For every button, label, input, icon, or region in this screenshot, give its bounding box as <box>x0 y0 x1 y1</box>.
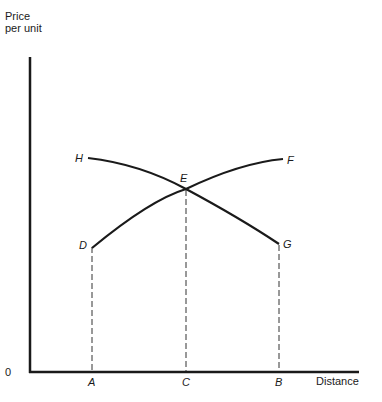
x-point-label-C: C <box>182 376 190 388</box>
point-label-H: H <box>75 152 83 164</box>
origin-label: 0 <box>5 366 11 378</box>
curve-HG <box>88 158 279 244</box>
y-axis-label: Price per unit <box>5 10 45 34</box>
x-point-label-B: B <box>275 376 282 388</box>
x-point-label-A: A <box>88 376 95 388</box>
x-axis-label: Distance <box>316 375 359 387</box>
point-label-D: D <box>79 239 87 251</box>
point-label-E: E <box>180 172 187 184</box>
point-label-F: F <box>287 154 294 166</box>
diagram-canvas <box>0 0 382 402</box>
curve-DF <box>92 159 283 248</box>
point-label-G: G <box>283 238 292 250</box>
